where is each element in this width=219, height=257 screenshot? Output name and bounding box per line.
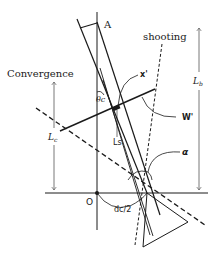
label-alpha: α	[182, 147, 189, 157]
label-origin: O	[86, 197, 93, 207]
label-convergence: Convergence	[7, 68, 74, 79]
label-ls: Ls	[113, 138, 122, 147]
alpha-leader	[148, 152, 180, 172]
label-a: A	[103, 19, 112, 30]
w-prime-leader	[142, 97, 176, 117]
label-lc: Lc	[47, 132, 58, 143]
beam-inner-line	[97, 22, 160, 215]
label-shooting: shooting	[143, 31, 187, 42]
label-x-prime: x'	[140, 70, 148, 79]
beam-outer-line	[77, 19, 147, 193]
geometry-diagram: A shooting Convergence x' W' θc Lb Lc Ls…	[0, 0, 219, 257]
label-theta-c: θc	[96, 95, 106, 104]
label-w-prime: W'	[182, 113, 193, 122]
label-lb: Lb	[192, 76, 203, 87]
beam-top-cap	[80, 23, 97, 28]
label-dc-half: dc/2	[114, 205, 131, 214]
lower-triangle	[143, 193, 188, 247]
